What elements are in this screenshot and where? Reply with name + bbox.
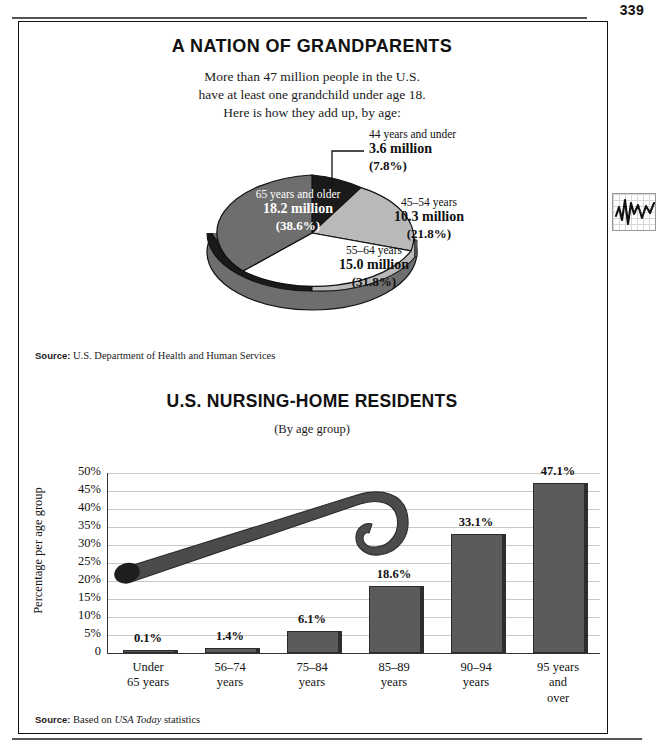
bar-value-label-6: 47.1%	[513, 464, 603, 479]
y-axis-tick-label: 25%	[39, 554, 101, 569]
x-axis-tick-line: and	[513, 675, 603, 690]
pie-figure: A NATION OF GRANDPARENTS More than 47 mi…	[19, 22, 605, 333]
x-axis-tick-line: 56–74	[185, 660, 275, 675]
y-axis-tick-label: 30%	[39, 536, 101, 551]
pie-label-65-older-percent: (38.6%)	[214, 218, 382, 233]
gridline	[108, 563, 600, 564]
pie-label-65-older-value: 18.2 million	[214, 201, 382, 218]
x-axis-tick-line: 85–89	[349, 660, 439, 675]
y-axis-tick-label: 45%	[39, 482, 101, 497]
x-axis-tick-line: years	[431, 675, 521, 690]
pie-label-44-under-category: 44 years and under	[369, 128, 456, 142]
bar-value-label-3: 6.1%	[267, 612, 357, 627]
pie-label-55-64: 55–64 years 15.0 million (31.8%)	[294, 244, 454, 289]
pie-subtitle-line-3: Here is how they add up, by age:	[19, 104, 605, 122]
pie-chart-title: A NATION OF GRANDPARENTS	[19, 36, 605, 57]
pie-subtitle-line-2: have at least one grandchild under age 1…	[19, 86, 605, 104]
pie-source-note: Source: U.S. Department of Health and Hu…	[35, 350, 275, 361]
footer-rule	[12, 738, 642, 740]
x-axis-tick-label-6: 95 yearsandover	[513, 660, 603, 706]
y-axis-tick-label: 0	[39, 644, 101, 659]
pie-subtitle-line-1: More than 47 million people in the U.S.	[19, 68, 605, 86]
y-axis-tick-label: 20%	[39, 572, 101, 587]
bar-3	[287, 631, 339, 653]
pie-source-text: U.S. Department of Health and Human Serv…	[73, 350, 275, 361]
x-axis-tick-label-1: Under65 years	[103, 660, 193, 691]
bar-source-prefix: Based on	[73, 714, 114, 725]
x-axis-tick-line: 65 years	[103, 675, 193, 690]
bar-value-label-2: 1.4%	[185, 629, 275, 644]
y-axis-tick-label: 5%	[39, 626, 101, 641]
page-number: 339	[620, 2, 644, 18]
gridline	[108, 545, 600, 546]
x-axis-tick-line: over	[513, 691, 603, 706]
x-axis-tick-line: years	[267, 675, 357, 690]
bar-value-label-1: 0.1%	[103, 631, 193, 646]
pie-source-label: Source:	[35, 350, 70, 361]
x-axis-tick-label-3: 75–84years	[267, 660, 357, 691]
pie-label-65-older: 65 years and older 18.2 million (38.6%)	[214, 188, 382, 233]
pie-label-55-64-category: 55–64 years	[294, 244, 454, 258]
x-axis-tick-line: Under	[103, 660, 193, 675]
content-box: A NATION OF GRANDPARENTS More than 47 mi…	[18, 21, 608, 734]
bar-source-label: Source:	[35, 714, 70, 725]
bar-chart-subtitle: (By age group)	[19, 422, 605, 437]
pie-label-65-older-category: 65 years and older	[214, 188, 382, 202]
y-axis-tick-label: 10%	[39, 608, 101, 623]
bar-2	[205, 648, 257, 653]
gridline	[108, 509, 600, 510]
bar-6	[533, 483, 585, 653]
line-chart-icon-path	[613, 194, 656, 231]
gridline	[108, 527, 600, 528]
gridline	[108, 599, 600, 600]
gridline	[108, 491, 600, 492]
bar-chart-figure: Percentage per age group 50%45%40%35%30%…	[19, 447, 605, 707]
pie-chart-canvas: 44 years and under 3.6 million (7.8%) 45…	[19, 128, 605, 333]
x-axis-tick-line: 75–84	[267, 660, 357, 675]
x-axis-tick-line: years	[349, 675, 439, 690]
bar-5	[451, 534, 503, 653]
bar-4	[369, 586, 421, 653]
pie-label-44-under-value: 3.6 million	[369, 141, 456, 158]
bar-value-label-5: 33.1%	[431, 515, 521, 530]
bar-chart-title: U.S. NURSING-HOME RESIDENTS	[19, 391, 605, 412]
x-axis-tick-line: 95 years	[513, 660, 603, 675]
pie-label-44-under-percent: (7.8%)	[369, 158, 456, 173]
bar-value-label-4: 18.6%	[349, 567, 439, 582]
y-axis-tick-label: 15%	[39, 590, 101, 605]
bar-source-publication: USA Today	[114, 714, 161, 725]
header-rule	[12, 17, 587, 19]
pie-chart-subtitle: More than 47 million people in the U.S. …	[19, 68, 605, 122]
pie-label-55-64-percent: (31.8%)	[294, 274, 454, 289]
x-axis-tick-label-4: 85–89years	[349, 660, 439, 691]
pie-label-55-64-value: 15.0 million	[294, 257, 454, 274]
x-axis-tick-line: years	[185, 675, 275, 690]
x-axis-tick-label-5: 90–94years	[431, 660, 521, 691]
x-axis-tick-line: 90–94	[431, 660, 521, 675]
bar-source-suffix: statistics	[161, 714, 200, 725]
pie-label-44-under: 44 years and under 3.6 million (7.8%)	[369, 128, 456, 173]
y-axis-tick-label: 40%	[39, 500, 101, 515]
y-axis-tick-label: 35%	[39, 518, 101, 533]
line-chart-icon	[612, 193, 656, 231]
x-axis-tick-label-2: 56–74years	[185, 660, 275, 691]
y-axis-tick-label: 50%	[39, 464, 101, 479]
bar-source-note: Source: Based on USA Today statistics	[35, 714, 200, 725]
bar-1	[123, 650, 175, 653]
